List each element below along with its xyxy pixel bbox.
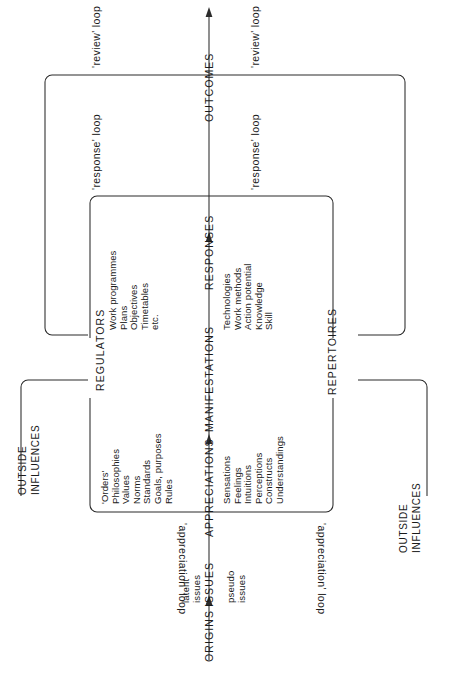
list-item: etc. [150, 251, 161, 330]
caption-response-loop-right: 'response' loop [250, 114, 261, 190]
latent-issues-line-2: issues [192, 575, 203, 603]
list-item: 'Orders' [100, 433, 111, 504]
caption-response-loop-left: 'response' loop [91, 114, 102, 190]
caption-appreciation-loop-left: 'appreciation' loop [177, 523, 188, 615]
caption-review-loop-right: 'review' loop [250, 6, 261, 68]
list-item: Sensations [222, 436, 233, 504]
label-regulators: REGULATORS [95, 309, 106, 391]
diagram-canvas: ORIGINS ISSUES APPRECIATIONS MANIFESTATI… [0, 0, 450, 675]
list-item: Goals, purposes [153, 433, 164, 504]
list-item: Skill [264, 263, 275, 330]
list-item: Work programmes [108, 251, 119, 330]
axis-label-appreciations: APPRECIATIONS [204, 438, 215, 537]
list-repertoire-appreciations: Sensations Feelings Intuitions Perceptio… [222, 436, 286, 504]
list-item: Understandings [275, 436, 286, 504]
list-repertoire-responses: Technologies Work methods Action potenti… [222, 263, 275, 330]
axis-label-origins: ORIGINS [204, 610, 215, 662]
outside-influences-right-bracket [358, 380, 427, 496]
list-regulator-appreciations: 'Orders' Philosophies Values Norms Stand… [100, 433, 174, 504]
axis-arrow-outcomes [206, 7, 213, 17]
outside-influences-left-line-2: INFLUENCES [31, 425, 44, 495]
outside-influences-right: OUTSIDE INFLUENCES [399, 483, 425, 553]
pseudo-issues-note: pseudo issues [226, 571, 248, 603]
axis-label-responses: RESPONSES [204, 215, 215, 290]
caption-appreciation-loop-right: 'appreciation' loop [316, 523, 327, 615]
list-item: Rules [164, 433, 175, 504]
axis-label-issues: ISSUES [204, 562, 215, 607]
outside-influences-left: OUTSIDE INFLUENCES [18, 425, 44, 495]
list-regulator-responses: Work programmes Plans Objectives Timetab… [108, 251, 161, 330]
list-item: Technologies [222, 263, 233, 330]
label-repertoires: REPERTOIRES [327, 308, 338, 395]
caption-review-loop-left: 'review' loop [91, 6, 102, 68]
axis-label-outcomes: OUTCOMES [204, 53, 215, 122]
pseudo-issues-line-2: issues [237, 571, 248, 603]
axis-label-manifestations: MANIFESTATIONS [204, 326, 215, 432]
outside-influences-right-line-2: INFLUENCES [412, 483, 425, 553]
